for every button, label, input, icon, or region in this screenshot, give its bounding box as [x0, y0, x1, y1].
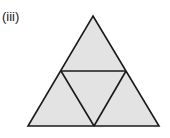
triangle-diagram — [0, 0, 170, 138]
